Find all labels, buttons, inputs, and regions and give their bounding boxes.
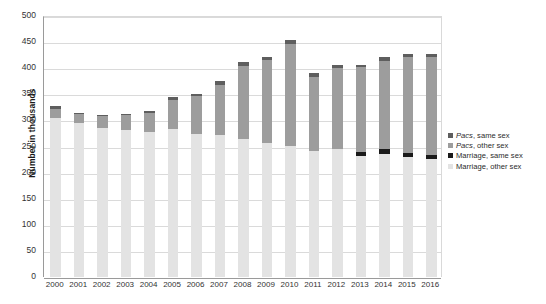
bar-segment-m-other-2009 [262,143,273,277]
legend-label-pacs-same-sex: Pacs, same sex [456,131,510,141]
bar-2001 [74,16,85,277]
y-axis-title: Number in thousands [27,53,37,213]
bar-2006 [191,16,202,277]
bar-segment-p-other-2013 [356,67,367,152]
bar-segment-m-other-2002 [97,128,108,277]
bar-2014 [379,16,390,277]
bar-segment-m-same-2016 [426,155,437,159]
bar-segment-p-same-2010 [285,40,296,44]
bar-2007 [215,16,226,277]
bar-segment-m-other-2014 [379,154,390,277]
bar-segment-m-other-2012 [332,149,343,277]
bar-segment-p-other-2014 [379,61,390,149]
y-tick-0: 0 [6,271,36,281]
bar-segment-m-same-2014 [379,149,390,154]
bar-segment-p-same-2004 [144,111,155,113]
bar-segment-m-other-2001 [74,123,85,277]
bar-segment-p-other-2011 [309,77,320,152]
bar-segment-m-other-2004 [144,132,155,277]
legend-label-marriage-same-sex: Marriage, same sex [456,151,523,161]
bar-2003 [121,16,132,277]
bar-segment-p-other-2003 [121,115,132,130]
bar-segment-p-other-2002 [97,116,108,127]
bar-2011 [309,16,320,277]
bar-2016 [426,16,437,277]
bar-segment-m-other-2007 [215,135,226,278]
legend-item-marriage-other-sex[interactable]: Marriage, other sex [448,162,544,172]
bar-segment-m-other-2006 [191,134,202,277]
bar-segment-p-other-2008 [238,66,249,139]
bar-segment-p-other-2001 [74,114,85,123]
legend-swatch-icon-pacs-same-sex [448,133,453,138]
y-tick-100: 100 [6,219,36,229]
bar-2013 [356,16,367,277]
bar-segment-p-same-2011 [309,73,320,76]
bar-segment-p-same-2006 [191,94,202,96]
legend-item-pacs-same-sex[interactable]: Pacs, same sex [448,131,544,141]
bar-segment-p-same-2013 [356,65,367,68]
bar-2004 [144,16,155,277]
bar-segment-m-other-2010 [285,146,296,277]
bar-segment-p-same-2000 [50,106,61,109]
y-tick-500: 500 [6,10,36,20]
bar-2015 [403,16,414,277]
bar-segment-p-same-2009 [262,57,273,60]
bar-2010 [285,16,296,277]
legend-swatch-icon-marriage-other-sex [448,164,453,169]
bar-segment-p-other-2007 [215,85,226,135]
bar-segment-m-other-2008 [238,139,249,277]
bar-segment-m-same-2015 [403,153,414,157]
bar-series-group [44,17,441,277]
bar-2009 [262,16,273,277]
bar-segment-p-other-2015 [403,57,414,153]
bar-segment-p-same-2003 [121,114,132,116]
y-tick-450: 450 [6,36,36,46]
legend-swatch-icon-marriage-same-sex [448,153,453,158]
bar-segment-m-other-2015 [403,157,414,277]
bar-segment-p-other-2009 [262,60,273,143]
gridline-0 [44,278,441,279]
bar-segment-p-same-2007 [215,81,226,85]
bar-segment-p-other-2006 [191,96,202,134]
bar-segment-p-same-2016 [426,54,437,57]
bar-2002 [97,16,108,277]
legend-item-pacs-other-sex[interactable]: Pacs, other sex [448,141,544,151]
plot-area [43,16,442,277]
bar-2012 [332,16,343,277]
legend-swatch-icon-pacs-other-sex [448,143,453,148]
bar-segment-p-same-2012 [332,65,343,68]
bar-segment-p-other-2000 [50,109,61,118]
y-tick-50: 50 [6,245,36,255]
bar-2008 [238,16,249,277]
bar-segment-m-other-2011 [309,151,320,277]
bar-segment-p-other-2016 [426,57,437,155]
bar-segment-p-other-2010 [285,44,296,146]
legend-item-marriage-same-sex[interactable]: Marriage, same sex [448,151,544,161]
bar-segment-m-other-2016 [426,159,437,277]
bar-segment-m-other-2005 [168,129,179,277]
bar-segment-m-other-2003 [121,130,132,277]
chart-legend: Pacs, same sexPacs, other sexMarriage, s… [448,131,544,172]
bar-segment-p-same-2015 [403,54,414,57]
bar-segment-p-same-2008 [238,62,249,65]
x-tick-2016: 2016 [416,280,444,289]
bar-segment-m-other-2013 [356,156,367,277]
bar-segment-p-other-2004 [144,113,155,132]
legend-label-pacs-other-sex: Pacs, other sex [456,141,508,151]
bar-2005 [168,16,179,277]
bar-segment-p-same-2002 [97,115,108,117]
bar-segment-m-other-2000 [50,118,61,277]
stacked-bar-chart: Number in thousands 05010015020025030035… [0,0,546,304]
bar-segment-p-other-2012 [332,68,343,148]
bar-segment-p-same-2014 [379,57,390,61]
legend-label-marriage-other-sex: Marriage, other sex [456,162,521,172]
bar-segment-p-same-2005 [168,97,179,100]
bar-segment-p-same-2001 [74,113,85,115]
bar-segment-p-other-2005 [168,100,179,130]
bar-2000 [50,16,61,277]
bar-segment-m-same-2013 [356,152,367,156]
